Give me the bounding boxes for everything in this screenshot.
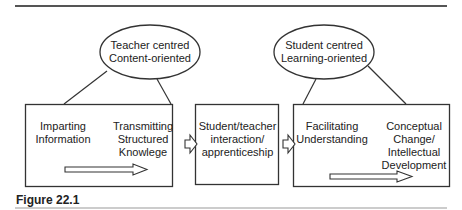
ellipse-label-line: Learning-oriented [274, 52, 374, 65]
connector-line [368, 66, 406, 104]
label-line: Information [33, 133, 93, 146]
diagram-canvas [0, 0, 462, 210]
ellipse-label-line: Teacher centred [100, 39, 200, 52]
ellipse-label-line: Content-oriented [100, 52, 200, 65]
label-line: interaction/ [196, 133, 279, 146]
label-facilitating-understanding: Facilitating Understanding [296, 120, 368, 146]
connector-line [64, 71, 107, 104]
label-line: Imparting [33, 120, 93, 133]
label-transmitting-knowledge: Transmitting Structured Knowlege [113, 120, 173, 159]
label-line: Knowlege [113, 146, 173, 159]
long-arrow-icon [330, 171, 412, 182]
label-line: Facilitating [296, 120, 368, 133]
label-student-teacher-interaction: Student/teacher interaction/ apprentices… [196, 120, 279, 159]
label-line: Conceptual [380, 120, 448, 133]
label-imparting-information: Imparting Information [33, 120, 93, 146]
long-arrow-icon [65, 164, 147, 175]
figure-caption: Figure 22.1 [16, 193, 79, 207]
label-line: Structured [113, 133, 173, 146]
label-line: apprenticeship [196, 146, 279, 159]
label-line: Change/ [380, 133, 448, 146]
ellipse-label-line: Student centred [274, 39, 374, 52]
ellipse-label-teacher: Teacher centred Content-oriented [100, 39, 200, 65]
ellipse-label-student: Student centred Learning-oriented [274, 39, 374, 65]
label-conceptual-change: Conceptual Change/ Intellectual Developm… [380, 120, 448, 172]
label-line: Development [380, 159, 448, 172]
label-line: Intellectual [380, 146, 448, 159]
connector-line [157, 79, 171, 104]
label-line: Transmitting [113, 120, 173, 133]
connector-line [303, 79, 316, 104]
label-line: Understanding [296, 133, 368, 146]
label-line: Student/teacher [196, 120, 279, 133]
